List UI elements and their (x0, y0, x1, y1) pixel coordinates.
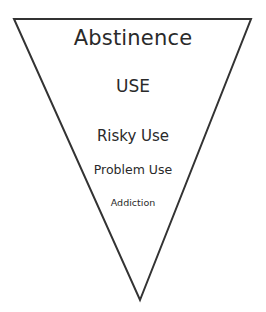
substance-use-continuum-diagram: Abstinence USE Risky Use Problem Use Add… (0, 0, 266, 312)
level-addiction: Addiction (0, 198, 266, 208)
level-problem-use: Problem Use (0, 164, 266, 177)
level-risky-use: Risky Use (0, 129, 266, 144)
level-abstinence: Abstinence (0, 28, 266, 49)
level-use: USE (0, 78, 266, 95)
